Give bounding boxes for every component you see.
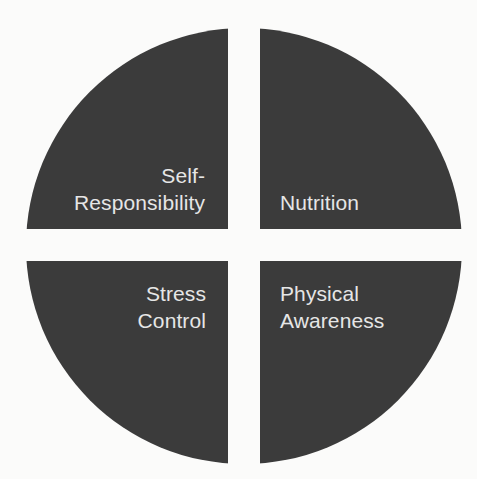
label-line: Responsibility [74, 189, 205, 216]
label-physical-awareness: Physical Awareness [280, 280, 384, 334]
label-stress-control: Stress Control [138, 280, 206, 334]
label-line: Nutrition [280, 189, 359, 216]
label-line: Self- [74, 162, 205, 189]
label-line: Awareness [280, 307, 384, 334]
label-line: Control [138, 307, 206, 334]
label-nutrition: Nutrition [280, 189, 359, 216]
wellness-wheel-diagram: Self- Responsibility Nutrition Stress Co… [0, 0, 477, 479]
quadrant-wheel-graphic [0, 0, 477, 479]
label-line: Physical [280, 280, 384, 307]
label-self-responsibility: Self- Responsibility [74, 162, 205, 216]
label-line: Stress [138, 280, 206, 307]
